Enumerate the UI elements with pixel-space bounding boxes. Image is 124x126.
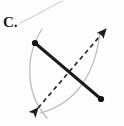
figure-letter-label: C. <box>3 15 18 30</box>
segment-endpoint-upper-left <box>32 40 38 46</box>
geometry-figure-canvas <box>0 0 124 126</box>
segment-endpoint-lower-right <box>98 96 104 102</box>
geometry-figure-container: C. <box>0 0 124 126</box>
label-leader-line <box>20 1 62 23</box>
main-segment <box>35 43 101 99</box>
